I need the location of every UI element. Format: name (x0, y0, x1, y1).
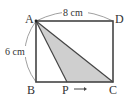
label-left-dimension: 6 cm (5, 46, 25, 57)
label-b: B (27, 83, 35, 97)
label-p: P (62, 83, 69, 97)
label-a: A (25, 12, 34, 26)
rectangle-diagram: A D B C P 8 cm 6 cm (0, 0, 129, 99)
label-top-dimension: 8 cm (63, 7, 83, 18)
point-a-dot (35, 20, 38, 23)
right-arrow-icon (74, 87, 87, 91)
label-d: D (115, 12, 124, 26)
label-c: C (109, 83, 117, 97)
